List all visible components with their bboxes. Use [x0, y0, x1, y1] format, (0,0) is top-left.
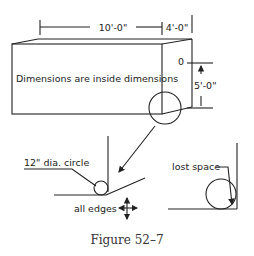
edges-label: all edges [74, 203, 117, 214]
diagram-canvas: 10'-0" 4'-0" Dimensions are inside dimen… [0, 0, 254, 256]
height-dimension: 0 5'-0" [178, 56, 217, 108]
height-label: 5'-0" [194, 80, 217, 91]
length-label: 10'-0" [99, 22, 128, 33]
lost-space-label: lost space [172, 161, 220, 172]
box-note: Dimensions are inside dimensions [16, 73, 178, 84]
circle-label: 12" dia. circle [24, 157, 89, 168]
depth-dimension: 4'-0" [162, 15, 192, 35]
lost-space-detail: lost space [168, 143, 237, 209]
depth-label: 4'-0" [166, 22, 189, 33]
edge-detail: 12" dia. circle all edges [24, 136, 145, 219]
zero-mark: 0 [178, 56, 184, 67]
length-dimension: 10'-0" [40, 20, 162, 35]
cross-arrows-icon [119, 198, 137, 219]
callout-circle [149, 92, 181, 124]
callout-arrow [119, 126, 155, 172]
figure-caption: Figure 52–7 [90, 233, 163, 247]
